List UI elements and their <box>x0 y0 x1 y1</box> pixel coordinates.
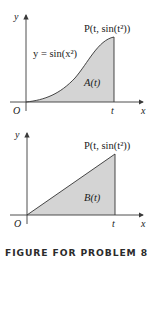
figure-canvas: y x O t y = sin(x²) P(t, sin(t²)) A(t) y… <box>0 0 153 312</box>
top-chart: y x O t y = sin(x²) P(t, sin(t²)) A(t) <box>10 11 146 116</box>
t-label: t <box>111 105 114 116</box>
curve-label: y = sin(x²) <box>33 48 78 60</box>
t-label: t <box>112 218 115 229</box>
area-A-region <box>26 37 114 102</box>
x-axis-label: x <box>140 218 146 229</box>
point-label: P(t, sin(t²)) <box>84 23 131 35</box>
figure-caption: FIGURE FOR PROBLEM 8 <box>0 247 153 258</box>
origin-label: O <box>13 105 20 116</box>
area-label: A(t) <box>83 77 101 89</box>
origin-label: O <box>14 218 21 229</box>
area-label: B(t) <box>84 192 101 204</box>
x-axis-label: x <box>140 105 146 116</box>
y-axis-label: y <box>14 129 20 140</box>
bottom-chart: y x O t P(t, sin(t²)) B(t) <box>10 129 146 229</box>
point-label: P(t, sin(t²)) <box>84 140 131 152</box>
y-axis-label: y <box>13 11 19 22</box>
